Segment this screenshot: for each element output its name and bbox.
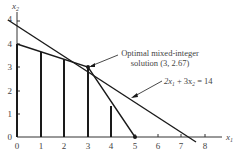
svg-text:6: 6 — [156, 141, 161, 151]
arrowhead-icon — [89, 63, 95, 67]
svg-text:0: 0 — [8, 132, 13, 142]
svg-text:1: 1 — [39, 141, 44, 151]
optimal-arrow — [91, 55, 118, 66]
y-tick-labels: 0 1 2 3 4 4 — [8, 14, 13, 142]
x-tick-labels: 0 1 2 3 4 5 6 7 8 — [15, 141, 208, 151]
svg-text:2: 2 — [62, 141, 67, 151]
svg-text:2: 2 — [8, 86, 13, 96]
x-intercept-point — [133, 135, 137, 139]
y-axis-label: x2 — [11, 1, 19, 12]
svg-text:4: 4 — [109, 141, 114, 151]
svg-text:3: 3 — [8, 62, 13, 72]
optimal-label-line2: solution (3, 2.67) — [131, 58, 190, 68]
svg-text:1: 1 — [8, 109, 13, 119]
svg-text:4: 4 — [8, 39, 13, 49]
x-axis-label: x1 — [225, 132, 233, 143]
svg-text:7: 7 — [179, 141, 184, 151]
svg-text:8: 8 — [203, 141, 208, 151]
optimal-label-line1: Optimal mixed-integer — [121, 48, 199, 58]
arrowhead-icon — [131, 93, 138, 98]
integer-segments — [17, 44, 111, 137]
mixed-integer-diagram: 0 1 2 3 4 5 6 7 8 0 1 2 3 4 4 x2 x1 Opti… — [0, 0, 236, 151]
svg-text:3: 3 — [86, 141, 91, 151]
svg-text:5: 5 — [133, 141, 138, 151]
constraint-label: 2x1 + 3x2 = 14 — [164, 76, 213, 87]
svg-text:0: 0 — [15, 141, 20, 151]
